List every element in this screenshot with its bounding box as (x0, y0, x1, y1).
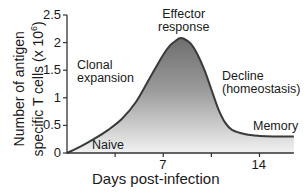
y-axis-title-line2: specific T cells (x 106) (27, 4, 46, 174)
label-naive: Naive (92, 139, 124, 152)
y-tick-label: 1 (54, 90, 61, 105)
y-tick-label: 0.5 (43, 117, 61, 132)
x-axis-title: Days post-infection (92, 170, 220, 187)
y-tick-label: 2.5 (43, 7, 61, 22)
label-clonal-line2: expansion (77, 72, 134, 85)
y-axis-title-line1: Number of antigen (12, 4, 27, 174)
label-effector-line2: response (158, 21, 209, 34)
y-tick-label: 1.5 (43, 62, 61, 77)
y-tick-label: 0 (54, 145, 61, 160)
x-tick-label: 14 (252, 157, 266, 172)
label-memory: Memory (253, 120, 298, 133)
label-decline: Decline (homeostasis) (222, 70, 301, 96)
label-decline-line2: (homeostasis) (222, 83, 301, 96)
label-clonal-expansion: Clonal expansion (77, 59, 134, 85)
y-tick-label: 2 (54, 35, 61, 50)
y-axis-title: Number of antigen specific T cells (x 10… (12, 4, 46, 174)
label-effector-response: Effector response (158, 8, 209, 34)
